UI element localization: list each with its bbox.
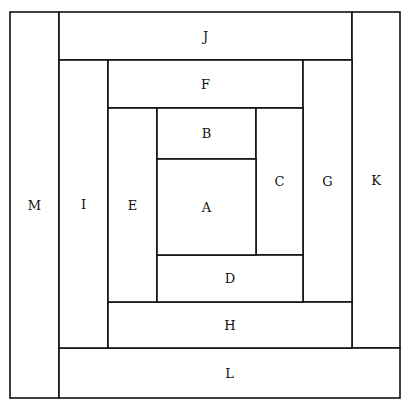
block-label: H	[224, 318, 235, 333]
block-b: B	[157, 108, 256, 159]
block-k: K	[352, 12, 400, 348]
block-a: A	[157, 159, 256, 255]
block-l: L	[59, 348, 400, 398]
block-g: G	[303, 60, 352, 302]
block-m: M	[10, 12, 59, 398]
block-i: I	[59, 60, 108, 348]
block-label: G	[322, 174, 332, 189]
block-d: D	[157, 255, 303, 302]
log-cabin-diagram: MJKLIFGHEBCDA	[0, 0, 410, 410]
block-label: M	[28, 198, 41, 213]
block-h: H	[108, 302, 352, 348]
block-label: J	[201, 29, 208, 44]
block-label: C	[275, 174, 285, 189]
block-j: J	[59, 12, 352, 60]
block-label: D	[225, 271, 235, 286]
block-label: E	[128, 198, 138, 213]
block-label: I	[81, 197, 86, 212]
block-label: B	[202, 126, 212, 141]
block-label: F	[201, 77, 210, 92]
block-label: L	[225, 366, 234, 381]
block-e: E	[108, 108, 157, 302]
block-label: K	[371, 173, 381, 188]
block-c: C	[256, 108, 303, 255]
block-label: A	[201, 200, 212, 215]
block-f: F	[108, 60, 303, 108]
